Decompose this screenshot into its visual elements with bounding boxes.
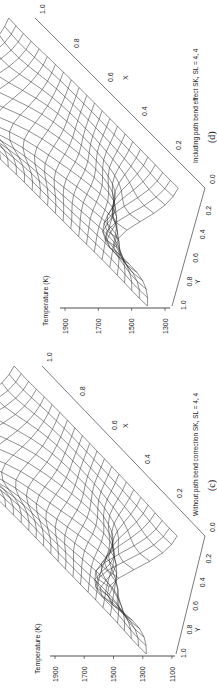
y-tick-label: 0.4 bbox=[199, 229, 206, 239]
x-tick-label: 1.0 bbox=[46, 352, 53, 362]
y-tick-label: 0.8 bbox=[186, 277, 193, 287]
y-tick-label: 0.8 bbox=[186, 625, 193, 635]
z-axis-title: Temperature (K) bbox=[34, 623, 42, 674]
z-tick-label: 1700 bbox=[95, 318, 102, 334]
y-axis-label: Y bbox=[194, 627, 201, 632]
z-tick-label: 1700 bbox=[81, 666, 88, 682]
z-tick-label: 1300 bbox=[162, 318, 169, 334]
x-tick-label: 0.0 bbox=[209, 522, 216, 532]
y-axis-label: Y bbox=[194, 279, 201, 284]
wireframe-mesh bbox=[0, 366, 177, 654]
y-tick-label: 1.0 bbox=[180, 300, 187, 310]
x-tick-label: 0.4 bbox=[141, 106, 148, 116]
x-tick-label: 0.8 bbox=[73, 38, 80, 48]
chart-panel-d: 1300150017001900 Temperature (K) 0.00.20… bbox=[0, 0, 217, 348]
x-tick-label: 0.2 bbox=[175, 140, 182, 150]
y-tick-label: 0.2 bbox=[205, 206, 212, 216]
x-tick-label: 0.2 bbox=[176, 488, 183, 498]
y-tick-label: 0.6 bbox=[192, 601, 199, 611]
x-tick-label: 0.6 bbox=[111, 420, 118, 430]
y-tick-label: 0.2 bbox=[205, 554, 212, 564]
y-tick-label: 0.6 bbox=[192, 253, 199, 263]
y-tick-label: 0.4 bbox=[199, 577, 206, 587]
chart-panel-c: 11001300150017001900 Temperature (K) 0.0… bbox=[0, 348, 217, 696]
x-axis-label: X bbox=[122, 423, 129, 428]
x-axis-label: X bbox=[122, 75, 129, 80]
x-tick-label: 1.0 bbox=[39, 4, 46, 14]
y-tick-label: 1.0 bbox=[180, 648, 187, 658]
z-tick-label: 1300 bbox=[139, 666, 146, 682]
z-tick-label: 1900 bbox=[62, 318, 69, 334]
surface-plot-d: 1300150017001900 Temperature (K) 0.00.20… bbox=[0, 0, 217, 348]
x-tick-label: 0.8 bbox=[79, 386, 86, 396]
wireframe-mesh bbox=[0, 18, 178, 306]
x-tick-label: 0.0 bbox=[209, 174, 216, 184]
surface-plot-c: 11001300150017001900 Temperature (K) 0.0… bbox=[0, 348, 217, 696]
panel-label-c: (c) bbox=[206, 480, 217, 491]
z-tick-label: 1500 bbox=[110, 666, 117, 682]
x-tick-label: 0.4 bbox=[144, 454, 151, 464]
z-tick-label: 1900 bbox=[52, 666, 59, 682]
z-tick-label: 1500 bbox=[128, 318, 135, 334]
z-axis-title: Temperature (K) bbox=[42, 275, 50, 326]
panel-label-d: (d) bbox=[206, 131, 217, 143]
x-tick-label: 0.6 bbox=[107, 72, 114, 82]
z-tick-label: 1100 bbox=[169, 667, 176, 682]
caption-c: Without path bend correction SK, SL = 4,… bbox=[192, 392, 200, 516]
caption-d: Including path bend effect SK, SL = 4, 4 bbox=[192, 48, 200, 163]
